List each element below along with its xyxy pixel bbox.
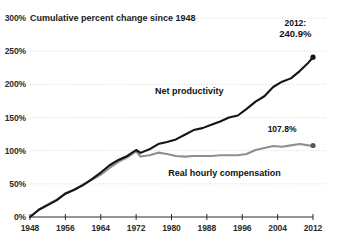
y-tick-label: 250% xyxy=(5,46,27,56)
endpoint-dot-net-productivity xyxy=(310,55,315,60)
chart-title: Cumulative percent change since 1948 xyxy=(30,13,196,23)
line-chart: 0%50%100%150%200%250%300% 19481956196419… xyxy=(0,0,340,242)
x-tick-label: 2004 xyxy=(268,223,287,233)
series-lines-group xyxy=(30,57,313,217)
y-tick-label: 100% xyxy=(5,146,27,156)
y-tick-label: 150% xyxy=(5,113,27,123)
compensation-end-label-value: 107.8% xyxy=(268,124,297,134)
x-tick-label: 1996 xyxy=(233,223,252,233)
x-tick-label: 2012 xyxy=(304,223,323,233)
gridlines-group xyxy=(30,18,327,184)
value-annotations: 2012:240.9%107.8% xyxy=(268,18,312,134)
series-line-net-productivity xyxy=(30,57,313,217)
y-tick-label: 0% xyxy=(14,212,27,222)
productivity-end-label-value: 240.9% xyxy=(279,28,312,39)
series-line-real-hourly-compensation xyxy=(30,144,313,217)
series-endpoint-dots xyxy=(310,55,315,148)
endpoint-dot-real-hourly-compensation xyxy=(310,143,315,148)
x-tick-label: 1948 xyxy=(21,223,40,233)
y-tick-label: 50% xyxy=(9,179,26,189)
series-inline-labels: Net productivityReal hourly compensation xyxy=(155,86,281,178)
chart-container: 0%50%100%150%200%250%300% 19481956196419… xyxy=(0,0,340,242)
x-tick-label: 1988 xyxy=(198,223,217,233)
productivity-end-label-year: 2012: xyxy=(284,18,306,28)
y-tick-label: 300% xyxy=(5,13,27,23)
x-tick-label: 1956 xyxy=(56,223,75,233)
x-axis xyxy=(30,214,313,220)
series-label-real-hourly-compensation: Real hourly compensation xyxy=(168,168,281,178)
x-tick-label: 1972 xyxy=(127,223,146,233)
y-axis-tick-labels: 0%50%100%150%200%250%300% xyxy=(5,13,27,222)
x-tick-label: 1964 xyxy=(91,223,110,233)
x-axis-tick-labels: 194819561964197219801988199620042012 xyxy=(21,223,323,233)
series-label-net-productivity: Net productivity xyxy=(155,86,224,96)
x-tick-label: 1980 xyxy=(162,223,181,233)
y-tick-label: 200% xyxy=(5,79,27,89)
